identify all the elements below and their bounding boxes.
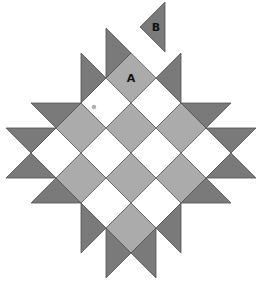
quilt-svg: A B bbox=[0, 0, 261, 286]
quilt-diagram: A B bbox=[0, 0, 261, 286]
label-a: A bbox=[127, 72, 136, 85]
marker-dot bbox=[92, 105, 97, 110]
label-b: B bbox=[152, 21, 160, 34]
